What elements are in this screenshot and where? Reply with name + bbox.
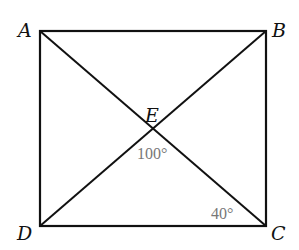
- rectangle-diagram: A B C D E 100° 40°: [0, 0, 299, 250]
- label-c: C: [271, 222, 286, 244]
- label-b: B: [271, 19, 286, 41]
- angle-label-c: 40°: [211, 205, 233, 222]
- label-e: E: [144, 104, 159, 126]
- angle-label-e: 100°: [137, 145, 167, 162]
- label-a: A: [16, 19, 32, 41]
- label-d: D: [16, 222, 32, 244]
